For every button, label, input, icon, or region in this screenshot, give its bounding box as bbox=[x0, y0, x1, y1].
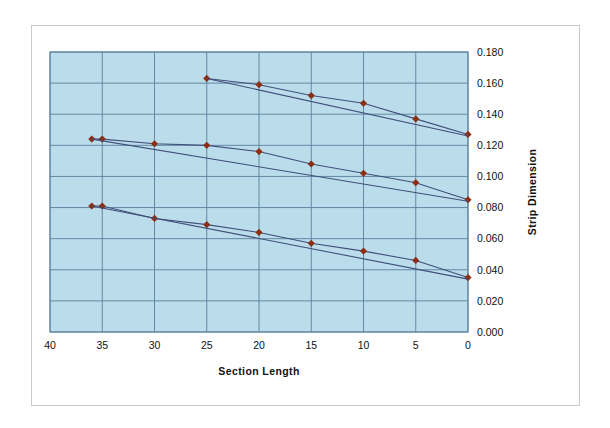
y-tick-label: 0.060 bbox=[477, 232, 503, 244]
chart-plot-svg: 4035302520151050 0.0000.0200.0400.0600.0… bbox=[0, 0, 610, 428]
y-tick-label: 0.140 bbox=[477, 108, 503, 120]
y-tick-label: 0.160 bbox=[477, 77, 503, 89]
y-tick-label: 0.120 bbox=[477, 139, 503, 151]
chart-figure: 4035302520151050 0.0000.0200.0400.0600.0… bbox=[0, 0, 610, 428]
y-tick-label: 0.020 bbox=[477, 295, 503, 307]
x-tick-label: 30 bbox=[149, 339, 161, 351]
x-tick-label: 20 bbox=[253, 339, 265, 351]
y-axis-title: Strip Dimension bbox=[526, 149, 538, 236]
x-tick-label: 10 bbox=[358, 339, 370, 351]
x-tick-label: 40 bbox=[44, 339, 56, 351]
x-tick-label: 35 bbox=[96, 339, 108, 351]
y-tick-label: 0.000 bbox=[477, 326, 503, 338]
x-tick-label: 25 bbox=[201, 339, 213, 351]
y-tick-label: 0.180 bbox=[477, 46, 503, 58]
y-tick-label: 0.040 bbox=[477, 264, 503, 276]
y-tick-label: 0.100 bbox=[477, 170, 503, 182]
y-axis-tick-labels: 0.0000.0200.0400.0600.0800.1000.1200.140… bbox=[477, 46, 503, 338]
x-axis-tick-labels: 4035302520151050 bbox=[44, 339, 471, 351]
x-axis-title: Section Length bbox=[218, 365, 299, 377]
x-tick-label: 0 bbox=[465, 339, 471, 351]
y-tick-label: 0.080 bbox=[477, 201, 503, 213]
x-tick-label: 15 bbox=[305, 339, 317, 351]
x-tick-label: 5 bbox=[413, 339, 419, 351]
